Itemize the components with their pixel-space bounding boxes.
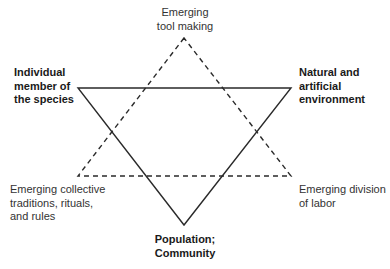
label-line: artificial xyxy=(299,80,365,94)
label-line: Community xyxy=(149,247,221,261)
label-line: and rules xyxy=(10,210,105,224)
label-line: the species xyxy=(14,93,74,107)
label-emerging-traditions: Emerging collective traditions, rituals,… xyxy=(10,183,105,224)
label-line: of labor xyxy=(299,197,386,211)
label-line: traditions, rituals, xyxy=(10,197,105,211)
label-emerging-tool-making: Emerging tool making xyxy=(148,6,222,33)
label-line: environment xyxy=(299,93,365,107)
triangle-diagram xyxy=(0,0,390,269)
label-line: tool making xyxy=(148,20,222,34)
label-emerging-division-of-labor: Emerging division of labor xyxy=(299,183,386,210)
label-line: member of xyxy=(14,80,74,94)
label-line: Population; xyxy=(149,233,221,247)
solid-triangle xyxy=(78,88,291,225)
label-line: Natural and xyxy=(299,66,365,80)
label-line: Emerging collective xyxy=(10,183,105,197)
label-natural-artificial-environment: Natural and artificial environment xyxy=(299,66,365,107)
label-population-community: Population; Community xyxy=(149,233,221,260)
label-line: Emerging xyxy=(148,6,222,20)
label-line: Emerging division xyxy=(299,183,386,197)
label-individual-member: Individual member of the species xyxy=(14,66,74,107)
dashed-triangle xyxy=(78,38,291,176)
label-line: Individual xyxy=(14,66,74,80)
